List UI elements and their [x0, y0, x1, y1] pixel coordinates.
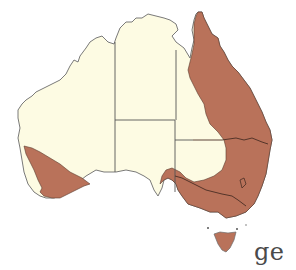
island-dot: [207, 227, 209, 229]
island-dot: [245, 224, 247, 226]
tasmania: [214, 232, 236, 252]
island-dot: [236, 228, 238, 230]
australia-map: [0, 0, 296, 270]
caption-text: ge: [254, 238, 285, 266]
